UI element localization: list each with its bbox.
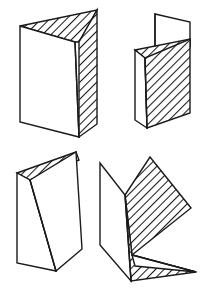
figure-bottom-left [17,152,82,271]
figure-bottom-right-upper-panel [125,157,191,255]
figure-top-left-left-panel [20,26,79,137]
folded-card-illustration [0,0,210,291]
figure-bottom-right [100,157,196,281]
figure-group [17,10,196,281]
figure-top-left [20,10,97,137]
figure-sheet [0,0,210,291]
figure-top-right [135,14,190,128]
